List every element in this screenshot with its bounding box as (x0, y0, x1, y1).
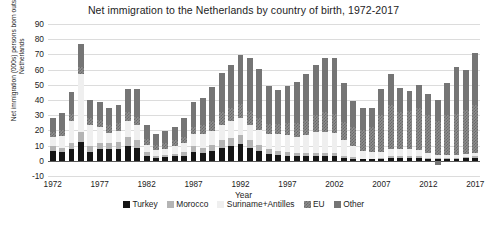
stacked-bar[interactable] (322, 58, 328, 161)
bar-group[interactable] (116, 24, 122, 176)
bar-group[interactable] (435, 24, 441, 176)
stacked-bar[interactable] (350, 101, 356, 161)
bar-group[interactable] (106, 24, 112, 176)
bar-group[interactable] (388, 24, 394, 176)
stacked-bar[interactable] (256, 69, 262, 161)
bar-group[interactable] (369, 24, 375, 176)
bar-group[interactable] (444, 24, 450, 176)
bar-group[interactable] (200, 24, 206, 176)
bar-group[interactable] (313, 24, 319, 176)
bar-group[interactable] (303, 24, 309, 176)
stacked-bar[interactable] (200, 98, 206, 161)
bar-group[interactable] (50, 24, 56, 176)
stacked-bar[interactable] (228, 65, 234, 161)
stacked-bar[interactable] (69, 92, 75, 160)
stacked-bar[interactable] (162, 131, 168, 161)
bar-group[interactable] (266, 24, 272, 176)
stacked-bar[interactable] (407, 91, 413, 161)
legend-item-suriname-antilles[interactable]: Suriname+Antilles (217, 199, 294, 209)
bar-group[interactable] (59, 24, 65, 176)
stacked-bar[interactable] (285, 86, 291, 160)
stacked-bar[interactable] (59, 113, 65, 161)
bar-group[interactable] (425, 24, 431, 176)
stacked-bar[interactable] (181, 118, 187, 161)
stacked-bar[interactable] (463, 70, 469, 160)
bar-group[interactable] (397, 24, 403, 176)
stacked-bar[interactable] (134, 89, 140, 160)
legend-item-turkey[interactable]: Turkey (123, 199, 158, 209)
bar-segment-turkey (369, 159, 375, 161)
bar-group[interactable] (209, 24, 215, 176)
legend-item-eu[interactable]: EU (304, 199, 325, 209)
legend-item-other[interactable]: Other (334, 199, 364, 209)
stacked-bar[interactable] (388, 74, 394, 161)
stacked-bar[interactable] (313, 65, 319, 161)
stacked-bar[interactable] (87, 100, 93, 161)
bar-group[interactable] (360, 24, 366, 176)
stacked-bar[interactable] (219, 73, 225, 161)
stacked-bar[interactable] (97, 102, 103, 161)
stacked-bar[interactable] (425, 94, 431, 161)
bar-group[interactable] (162, 24, 168, 176)
bar-group[interactable] (416, 24, 422, 176)
stacked-bar[interactable] (294, 82, 300, 161)
bar-group[interactable] (322, 24, 328, 176)
x-axis-tick-label: 2017 (466, 180, 484, 189)
stacked-bar[interactable] (247, 58, 253, 161)
bar-group[interactable] (134, 24, 140, 176)
bar-group[interactable] (181, 24, 187, 176)
bar-group[interactable] (350, 24, 356, 176)
bar-group[interactable] (219, 24, 225, 176)
stacked-bar[interactable] (341, 83, 347, 161)
bar-group[interactable] (472, 24, 478, 176)
bar-group[interactable] (378, 24, 384, 176)
stacked-bar[interactable] (378, 89, 384, 160)
bar-group[interactable] (247, 24, 253, 176)
bar-group[interactable] (87, 24, 93, 176)
bar-group[interactable] (97, 24, 103, 176)
bar-group[interactable] (191, 24, 197, 176)
stacked-bar[interactable] (397, 88, 403, 161)
stacked-bar[interactable] (332, 58, 338, 161)
stacked-bar[interactable] (144, 125, 150, 161)
stacked-bar[interactable] (416, 85, 422, 161)
stacked-bar[interactable] (116, 105, 122, 161)
bar-group[interactable] (153, 24, 159, 176)
stacked-bar[interactable] (444, 83, 450, 160)
legend-item-morocco[interactable]: Morocco (167, 199, 209, 209)
stacked-bar[interactable] (172, 127, 178, 161)
bar-group[interactable] (285, 24, 291, 176)
bar-group[interactable] (125, 24, 131, 176)
stacked-bar[interactable] (238, 55, 244, 161)
bar-group[interactable] (78, 24, 84, 176)
bar-segment-eu (425, 115, 431, 153)
bar-group[interactable] (454, 24, 460, 176)
stacked-bar[interactable] (303, 74, 309, 161)
bar-group[interactable] (463, 24, 469, 176)
stacked-bar[interactable] (275, 90, 281, 161)
stacked-bar[interactable] (153, 134, 159, 161)
stacked-bar[interactable] (472, 53, 478, 161)
stacked-bar[interactable] (78, 44, 84, 161)
stacked-bar[interactable] (106, 108, 112, 160)
bar-group[interactable] (275, 24, 281, 176)
stacked-bar[interactable] (125, 89, 131, 160)
stacked-bar[interactable] (360, 108, 366, 160)
stacked-bar[interactable] (454, 67, 460, 161)
stacked-bar[interactable] (209, 87, 215, 161)
bar-group[interactable] (69, 24, 75, 176)
stacked-bar[interactable] (191, 102, 197, 160)
stacked-bar[interactable] (369, 108, 375, 160)
stacked-bar[interactable] (50, 118, 56, 161)
stacked-bar[interactable] (266, 86, 272, 161)
bar-group[interactable] (332, 24, 338, 176)
bar-group[interactable] (341, 24, 347, 176)
bar-group[interactable] (407, 24, 413, 176)
bar-group[interactable] (238, 24, 244, 176)
bar-group[interactable] (144, 24, 150, 176)
bar-group[interactable] (294, 24, 300, 176)
bar-group[interactable] (172, 24, 178, 176)
bar-group[interactable] (256, 24, 262, 176)
bar-group[interactable] (228, 24, 234, 176)
stacked-bar[interactable] (435, 100, 441, 161)
